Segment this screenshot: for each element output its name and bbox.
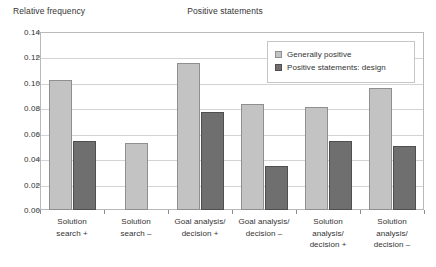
- y-tick-label: 0.10: [4, 78, 40, 87]
- bar-group: [40, 32, 104, 210]
- legend-swatch-icon: [275, 51, 282, 58]
- x-category-label-line: Solution: [296, 216, 360, 228]
- bar: [177, 63, 200, 210]
- x-category-label-line: search –: [104, 228, 168, 240]
- x-tick-mark: [424, 210, 425, 214]
- x-category-label-line: decision –: [232, 228, 296, 240]
- x-category-label: Solutionsearch –: [104, 216, 168, 239]
- x-axis-labels: Solutionsearch +Solutionsearch –Goal ana…: [40, 216, 424, 264]
- y-tick-label: 0.06: [4, 129, 40, 138]
- y-tick-label: 0.12: [4, 53, 40, 62]
- x-category-label-line: decision +: [296, 239, 360, 251]
- bar: [241, 104, 264, 210]
- legend-item-generally-positive: Generally positive: [275, 50, 408, 59]
- bar: [125, 143, 148, 210]
- x-tick-mark: [168, 210, 169, 214]
- x-category-label: Solutionanalysis/decision +: [296, 216, 360, 251]
- x-tick-mark: [296, 210, 297, 214]
- legend-swatch-icon: [275, 64, 282, 71]
- bar-group: [104, 32, 168, 210]
- y-tick-label: 0.02: [4, 180, 40, 189]
- bar: [305, 107, 328, 210]
- x-category-label-line: decision +: [168, 228, 232, 240]
- x-category-label-line: Solution: [360, 216, 424, 228]
- legend: Generally positive Positive statements: …: [267, 41, 415, 83]
- y-tick-label: 0.04: [4, 155, 40, 164]
- x-tick-mark: [360, 210, 361, 214]
- bar: [49, 80, 72, 210]
- y-tick-label: 0.14: [4, 28, 40, 37]
- x-tick-mark: [232, 210, 233, 214]
- legend-label: Positive statements: design: [287, 63, 386, 72]
- x-category-label-line: search +: [40, 228, 104, 240]
- x-category-label: Solutionsearch +: [40, 216, 104, 239]
- x-category-label: Goal analysis/decision +: [168, 216, 232, 239]
- x-category-label-line: Goal analysis/: [232, 216, 296, 228]
- bar: [393, 146, 416, 210]
- bar: [329, 141, 352, 210]
- x-tick-mark: [40, 210, 41, 214]
- x-category-label-line: analysis/: [296, 228, 360, 240]
- x-category-label-line: analysis/: [360, 228, 424, 240]
- y-axis: 0.000.020.040.060.080.100.120.14: [0, 32, 40, 210]
- x-category-label-line: Goal analysis/: [168, 216, 232, 228]
- bar-chart: Relative frequency Positive statements 0…: [0, 0, 436, 267]
- x-category-label: Solutionanalysis/decision –: [360, 216, 424, 251]
- y-tick-label: 0.08: [4, 104, 40, 113]
- legend-label: Generally positive: [287, 50, 352, 59]
- x-category-label-line: Solution: [104, 216, 168, 228]
- bar: [369, 88, 392, 210]
- y-tick-label: 0.00: [4, 206, 40, 215]
- legend-item-positive-statements-design: Positive statements: design: [275, 63, 408, 72]
- chart-title: Positive statements: [0, 6, 436, 16]
- x-category-label: Goal analysis/decision –: [232, 216, 296, 239]
- bar-group: [168, 32, 232, 210]
- bar: [73, 141, 96, 210]
- x-tick-mark: [104, 210, 105, 214]
- bar: [265, 166, 288, 211]
- x-category-label-line: Solution: [40, 216, 104, 228]
- bar: [201, 112, 224, 210]
- x-category-label-line: decision –: [360, 239, 424, 251]
